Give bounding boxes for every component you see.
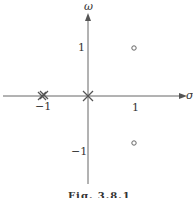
- y-tick-label-pos1: 1: [78, 42, 85, 53]
- sigma-axis-label: σ: [186, 90, 193, 101]
- omega-axis-label: ω: [84, 1, 93, 12]
- y-tick-label-neg1: −1: [71, 146, 87, 157]
- zero-marker-lower-icon: [132, 141, 136, 145]
- zero-marker-upper-icon: [132, 46, 136, 50]
- pole-zero-plot: [0, 0, 193, 198]
- x-tick-label-neg1: −1: [35, 101, 51, 112]
- figure-caption: Fig. 3.8.1: [68, 190, 131, 198]
- omega-axis-arrowhead-icon: [85, 13, 91, 21]
- x-tick-label-pos1: 1: [132, 102, 139, 113]
